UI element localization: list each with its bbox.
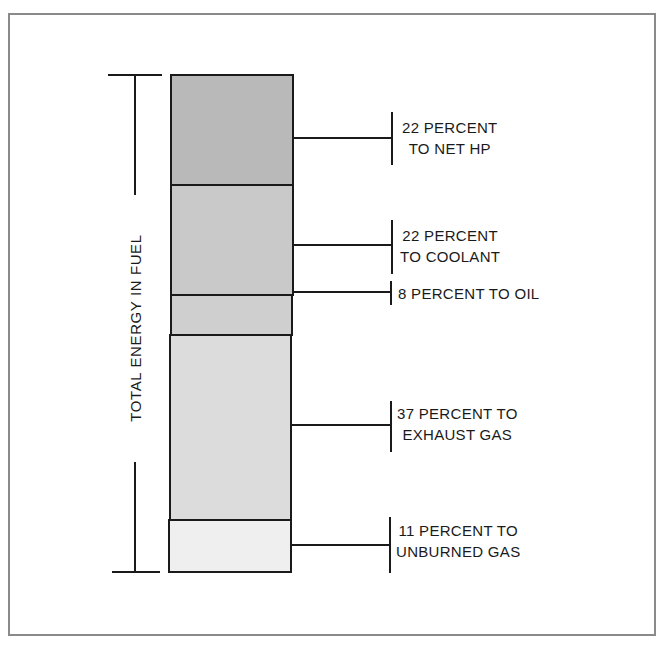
- label-connectors: [291, 112, 392, 573]
- label-coolant: 22 PERCENT TO COOLANT: [400, 225, 500, 267]
- label-net-hp-line1: 22 PERCENT: [402, 117, 498, 138]
- segment-unburned: [169, 520, 291, 572]
- segment-oil: [171, 295, 292, 335]
- label-oil: 8 PERCENT TO OIL: [398, 283, 540, 304]
- label-unburned-line2: UNBURNED GAS: [396, 541, 520, 562]
- segment-net-hp: [171, 75, 293, 185]
- total-energy-label: TOTAL ENERGY IN FUEL: [127, 234, 144, 421]
- segment-exhaust: [170, 335, 291, 520]
- label-oil-line1: 8 PERCENT TO OIL: [398, 283, 540, 304]
- label-coolant-line2: TO COOLANT: [400, 246, 500, 267]
- label-exhaust: 37 PERCENT TO EXHAUST GAS: [397, 403, 518, 445]
- label-exhaust-line2: EXHAUST GAS: [397, 424, 518, 445]
- label-net-hp: 22 PERCENT TO NET HP: [402, 117, 498, 159]
- label-unburned: 11 PERCENT TO UNBURNED GAS: [396, 520, 520, 562]
- label-net-hp-line2: TO NET HP: [402, 138, 498, 159]
- label-exhaust-line1: 37 PERCENT TO: [397, 403, 518, 424]
- segment-coolant: [171, 185, 293, 295]
- label-coolant-line1: 22 PERCENT: [400, 225, 500, 246]
- label-unburned-line1: 11 PERCENT TO: [396, 520, 520, 541]
- energy-bar-diagram: [0, 0, 667, 652]
